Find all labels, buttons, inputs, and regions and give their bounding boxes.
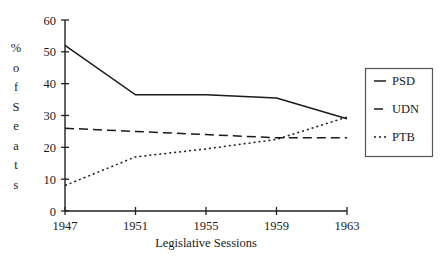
- y-axis-title-char: %: [11, 41, 21, 55]
- y-tick-label: 60: [44, 14, 57, 28]
- y-axis-title-char: o: [13, 61, 19, 75]
- x-tick-label: 1947: [53, 219, 78, 233]
- chart-container: 0102030405060 19471951195519591963 %ofSe…: [0, 0, 442, 268]
- y-axis-title-char: f: [14, 80, 19, 94]
- y-tick-label: 50: [44, 45, 57, 59]
- y-axis-title-char: a: [13, 139, 19, 153]
- data-series-group: [65, 45, 347, 185]
- y-axis-title-char: s: [14, 178, 19, 192]
- y-axis-title-char: S: [13, 100, 20, 114]
- y-tick-label: 30: [44, 109, 57, 123]
- series-line-ptb: [65, 117, 347, 185]
- legend-label-psd: PSD: [392, 74, 415, 88]
- y-tick-label: 10: [44, 173, 57, 187]
- series-line-udn: [65, 128, 347, 138]
- x-tick-label: 1959: [264, 219, 289, 233]
- axes-group: [65, 20, 347, 211]
- y-tick-label: 40: [44, 77, 57, 91]
- y-axis-title-char: t: [14, 158, 18, 172]
- y-axis-title: %ofSeats: [11, 41, 21, 192]
- y-tick-label: 0: [50, 205, 56, 219]
- legend-label-ptb: PTB: [392, 130, 415, 144]
- series-line-psd: [65, 45, 347, 118]
- x-axis-title: Legislative Sessions: [155, 236, 257, 250]
- line-chart: 0102030405060 19471951195519591963 %ofSe…: [0, 0, 442, 268]
- chart-legend: PSDUDNPTB: [366, 69, 433, 157]
- y-tick-label: 20: [44, 141, 57, 155]
- x-tick-label: 1955: [194, 219, 219, 233]
- x-tick-label: 1963: [335, 219, 360, 233]
- legend-label-udn: UDN: [392, 102, 419, 116]
- x-tick-label: 1951: [123, 219, 148, 233]
- y-axis-title-char: e: [13, 119, 19, 133]
